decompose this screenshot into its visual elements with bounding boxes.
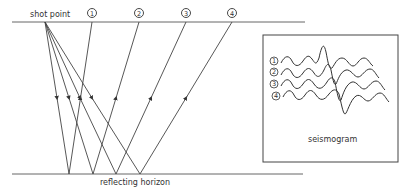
svg-text:1: 1 — [272, 57, 276, 65]
upgoing-rays — [69, 22, 232, 174]
svg-text:2: 2 — [272, 68, 276, 76]
receiver-2: 2 — [135, 9, 144, 18]
trace-label-1: 1 — [270, 57, 278, 65]
reflecting-horizon-label: reflecting horizon — [100, 178, 170, 187]
seismogram-label: seismogram — [308, 135, 357, 144]
trace-label-3: 3 — [270, 80, 278, 88]
trace-label-4: 4 — [272, 92, 280, 100]
svg-text:4: 4 — [230, 10, 234, 18]
downgoing-rays — [45, 22, 140, 174]
seismogram-trace-2 — [281, 64, 379, 84]
shot-point-label: shot point — [30, 10, 70, 19]
receiver-3: 3 — [182, 9, 191, 18]
receiver-4: 4 — [228, 9, 237, 18]
svg-text:1: 1 — [90, 10, 94, 18]
seismic-reflection-diagram: shot point reflecting horizon 1 2 3 4 — [0, 0, 411, 192]
svg-text:3: 3 — [184, 10, 188, 18]
seismogram-trace-4 — [283, 90, 389, 114]
receiver-1: 1 — [88, 9, 97, 18]
svg-text:3: 3 — [272, 80, 276, 88]
svg-text:2: 2 — [137, 10, 141, 18]
trace-label-2: 2 — [270, 68, 278, 76]
svg-text:4: 4 — [274, 92, 278, 100]
